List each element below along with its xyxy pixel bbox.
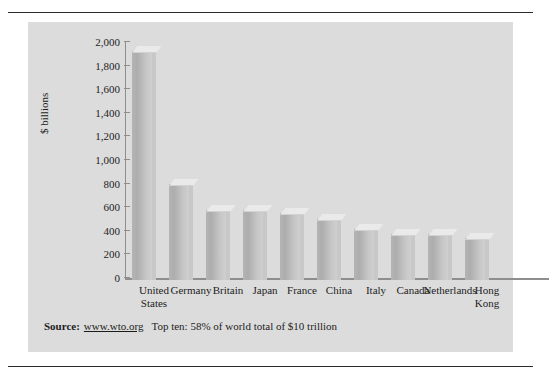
x-axis-label-line: Kong [454, 297, 520, 310]
bar [280, 213, 300, 280]
y-tick-mark [124, 277, 130, 278]
x-axis-label: HongKong [454, 284, 520, 309]
bar [317, 219, 337, 280]
y-tick-mark [124, 183, 130, 184]
y-tick: 1,600 [56, 83, 134, 95]
bar [169, 184, 189, 280]
bar-front-face [280, 213, 300, 280]
bar-top-face [243, 205, 272, 212]
y-tick-label: 0 [115, 272, 121, 284]
y-tick: 800 [56, 178, 134, 190]
bottom-divider [8, 366, 533, 367]
y-tick-mark [124, 159, 130, 160]
bar-top-face [354, 224, 383, 231]
y-tick-label: 1,200 [95, 130, 120, 142]
bar-side-face [226, 210, 230, 280]
bar-front-face [243, 210, 263, 280]
bar-front-face [428, 234, 448, 280]
y-tick: 1,200 [56, 130, 134, 142]
x-axis-label-line: Hong [454, 284, 520, 297]
bar-top-face [206, 205, 235, 212]
y-axis-label: $ billions [38, 93, 50, 134]
bar [428, 234, 448, 280]
bar-side-face [374, 229, 378, 280]
chart-panel: $ billions 02004006008001,0001,2001,4001… [28, 22, 513, 352]
y-tick: 200 [56, 248, 134, 260]
y-tick-label: 600 [104, 201, 121, 213]
bar-side-face [152, 51, 156, 280]
y-tick: 1,800 [56, 60, 134, 72]
bar-side-face [263, 210, 267, 280]
y-tick-label: 200 [104, 248, 121, 260]
source-label: Source: [44, 320, 80, 332]
bar-front-face [206, 210, 226, 280]
bar-side-face [189, 184, 193, 280]
bar-top-face [169, 179, 198, 186]
bar-side-face [337, 219, 341, 280]
y-tick: 400 [56, 225, 134, 237]
source-note-text: Top ten: 58% of world total of $10 trill… [151, 320, 337, 332]
bar-front-face [465, 238, 485, 280]
y-tick: 1,000 [56, 154, 134, 166]
y-tick-label: 800 [104, 178, 121, 190]
y-tick-label: 400 [104, 225, 121, 237]
y-tick-label: 1,000 [95, 154, 120, 166]
plot-area: $ billions 02004006008001,0001,2001,4001… [56, 38, 496, 300]
bar-side-face [411, 234, 415, 280]
bar [132, 51, 152, 280]
y-tick-mark [124, 206, 130, 207]
y-tick-mark [124, 41, 130, 42]
source-note: Source:www.wto.orgTop ten: 58% of world … [44, 320, 337, 332]
y-tick-label: 1,600 [95, 83, 120, 95]
x-axis-label-line: States [121, 297, 187, 310]
y-tick: 0 [56, 272, 134, 284]
y-tick-mark [124, 135, 130, 136]
bar-front-face [169, 184, 189, 280]
bar-top-face [465, 233, 494, 240]
source-url-link[interactable]: www.wto.org [84, 320, 144, 332]
bar-front-face [317, 219, 337, 280]
bar-front-face [354, 229, 374, 280]
bar [354, 229, 374, 280]
y-tick-mark [124, 253, 130, 254]
bar-top-face [132, 46, 161, 53]
y-tick-mark [124, 112, 130, 113]
bar-top-face [391, 229, 420, 236]
y-tick: 1,400 [56, 107, 134, 119]
bar-side-face [448, 234, 452, 280]
y-tick: 2,000 [56, 36, 134, 48]
bar-front-face [391, 234, 411, 280]
y-tick-label: 1,400 [95, 107, 120, 119]
bar-front-face [132, 51, 152, 280]
y-tick-mark [124, 230, 130, 231]
y-tick-mark [124, 88, 130, 89]
bar-side-face [300, 213, 304, 280]
bar [465, 238, 485, 280]
y-tick-label: 2,000 [95, 36, 120, 48]
bar-top-face [428, 229, 457, 236]
bar-top-face [317, 214, 346, 221]
y-tick-mark [124, 65, 130, 66]
y-tick: 600 [56, 201, 134, 213]
bar-top-face [280, 208, 309, 215]
top-divider [8, 12, 533, 13]
bar [206, 210, 226, 280]
y-tick-label: 1,800 [95, 60, 120, 72]
bar [243, 210, 263, 280]
bar [391, 234, 411, 280]
bar-side-face [485, 238, 489, 280]
